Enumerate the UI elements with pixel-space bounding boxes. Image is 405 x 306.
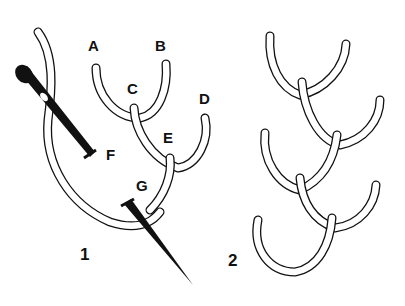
label-d: D	[199, 91, 210, 106]
figure-2-number: 2	[228, 252, 237, 269]
figure-2-drawing	[257, 36, 380, 272]
label-c: C	[127, 81, 138, 96]
label-b: B	[155, 38, 166, 53]
thread-e	[150, 158, 170, 210]
label-e: E	[163, 130, 173, 145]
label-f: F	[106, 147, 115, 162]
label-g: G	[136, 178, 148, 193]
stitch-diagram: .thr-o { fill:none; stroke:#111; stroke-…	[0, 0, 405, 306]
figure-1-number: 1	[80, 246, 89, 263]
diagram-artwork: .thr-o { fill:none; stroke:#111; stroke-…	[0, 0, 405, 306]
label-a: A	[88, 38, 99, 53]
